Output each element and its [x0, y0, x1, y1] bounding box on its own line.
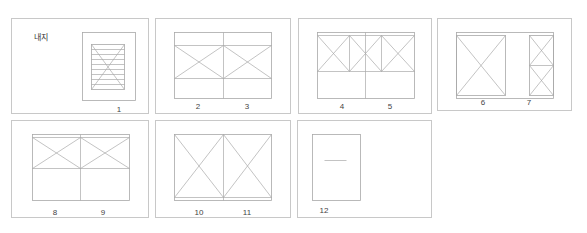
spread-diagram [299, 19, 433, 115]
page-number-label: 6 [481, 98, 485, 107]
spread-diagram [298, 121, 433, 219]
spread-diagram [12, 19, 150, 115]
panel-4-5: 45 [298, 18, 432, 114]
page-number-label: 8 [53, 208, 57, 217]
page-number-label: 1 [117, 105, 121, 114]
panel-title: 내지 [34, 31, 48, 42]
page-frame [318, 33, 415, 99]
page-number-label: 9 [101, 208, 105, 217]
page-number-label: 5 [388, 102, 392, 111]
page-number-label: 7 [527, 98, 531, 107]
spread-diagram [12, 121, 150, 219]
panel-6-7: 67 [437, 18, 572, 111]
page-number-label: 4 [340, 102, 344, 111]
page-frame [83, 33, 136, 101]
page-frame [175, 33, 272, 99]
page-frame [175, 135, 272, 201]
page-number-label: 12 [320, 206, 329, 215]
panel-2-3: 23 [155, 18, 291, 114]
page-frame [313, 135, 361, 201]
spread-diagram [438, 19, 573, 112]
page-number-label: 11 [243, 208, 251, 217]
panel-1: 내지1 [11, 18, 149, 114]
panel-8-9: 89 [11, 120, 149, 218]
page-number-label: 10 [195, 208, 204, 217]
page-number-label: 2 [196, 102, 200, 111]
page-number-label: 3 [245, 102, 249, 111]
page-frame [33, 135, 130, 201]
spread-diagram [156, 19, 292, 115]
panel-12: 12 [297, 120, 432, 218]
panel-10-11: 1011 [155, 120, 291, 218]
spread-diagram [156, 121, 292, 219]
